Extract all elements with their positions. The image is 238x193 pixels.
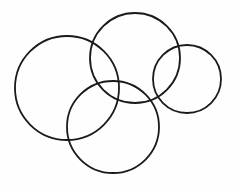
diagram-canvas <box>0 0 238 193</box>
circle-right-small <box>153 45 221 113</box>
circle-top-middle <box>90 13 180 103</box>
circle-bottom-middle <box>67 81 159 173</box>
overlapping-circles-diagram <box>0 0 238 193</box>
